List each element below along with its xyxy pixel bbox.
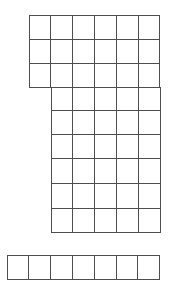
grid-cell <box>116 183 138 208</box>
grid-cell <box>116 15 138 39</box>
grid-row <box>51 183 160 208</box>
grid-cell <box>51 158 73 183</box>
grid-cell <box>116 63 138 87</box>
grid-row <box>51 87 160 110</box>
grid-row <box>7 255 160 279</box>
grid-cell <box>95 110 117 134</box>
grid-cell <box>73 39 95 63</box>
grid-cell <box>29 63 51 87</box>
grid-row <box>51 110 160 134</box>
grid-cell <box>116 39 138 63</box>
grid-cell <box>95 183 117 208</box>
grid-cell <box>73 87 95 110</box>
grid-cell <box>95 87 117 110</box>
grid-cell <box>72 255 94 279</box>
grid-cell <box>95 208 117 232</box>
grid-cell <box>29 15 51 39</box>
grid-cell <box>116 134 138 158</box>
grid-cell <box>51 15 73 39</box>
grid-cell <box>94 63 116 87</box>
grid-cell <box>138 158 160 183</box>
grid-cell <box>94 15 116 39</box>
grid-cell <box>29 255 51 279</box>
grid-cell <box>73 110 95 134</box>
grid-cell <box>73 15 95 39</box>
grid-cell <box>51 255 73 279</box>
grid-cell <box>73 158 95 183</box>
grid-cell <box>95 134 117 158</box>
grid-cell <box>116 158 138 183</box>
grid-cell <box>51 63 73 87</box>
grid-cell <box>94 39 116 63</box>
grid-cell <box>138 39 160 63</box>
grid-cell <box>51 183 73 208</box>
grid-cells-group <box>7 15 160 279</box>
grid-row <box>29 15 160 39</box>
grid-cell <box>73 208 95 232</box>
grid-cell <box>138 110 160 134</box>
grid-cell <box>116 87 138 110</box>
grid-polyomino-svg <box>0 0 182 298</box>
grid-cell <box>138 87 160 110</box>
grid-cell <box>29 39 51 63</box>
grid-cell <box>51 134 73 158</box>
grid-cell <box>116 110 138 134</box>
grid-cell <box>94 255 116 279</box>
grid-cell <box>51 87 73 110</box>
grid-cell <box>138 183 160 208</box>
grid-cell <box>51 110 73 134</box>
grid-cell <box>73 134 95 158</box>
grid-cell <box>138 134 160 158</box>
grid-cell <box>73 63 95 87</box>
grid-cell <box>73 183 95 208</box>
grid-cell <box>116 208 138 232</box>
grid-cell <box>7 255 29 279</box>
grid-cell <box>51 208 73 232</box>
grid-polyomino-figure <box>0 0 182 298</box>
grid-cell <box>51 39 73 63</box>
grid-cell <box>116 255 138 279</box>
grid-cell <box>138 255 160 279</box>
grid-row <box>51 158 160 183</box>
grid-row <box>51 208 160 232</box>
grid-cell <box>95 158 117 183</box>
grid-row <box>29 63 160 87</box>
grid-row <box>51 134 160 158</box>
grid-cell <box>138 63 160 87</box>
grid-cell <box>138 15 160 39</box>
grid-row <box>29 39 160 63</box>
grid-cell <box>138 208 160 232</box>
